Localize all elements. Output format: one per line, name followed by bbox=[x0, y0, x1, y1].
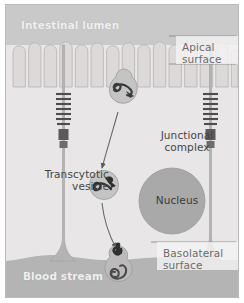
intestinal-lumen-label: Intestinal lumen bbox=[21, 19, 119, 31]
junctional-complex-label: Junctional complex bbox=[147, 129, 227, 153]
transcytosis-diagram-figure: Intestinal lumen Apical surface Junction… bbox=[5, 4, 239, 298]
nucleus-label: Nucleus bbox=[146, 194, 208, 206]
apical-surface-label: Apical surface bbox=[182, 41, 222, 65]
blood-stream-label: Blood stream bbox=[23, 270, 103, 282]
basolateral-surface-label: Basolateral surface bbox=[163, 247, 223, 271]
transcytotic-vesicle-label: Transcytotic vesicle bbox=[14, 168, 109, 192]
